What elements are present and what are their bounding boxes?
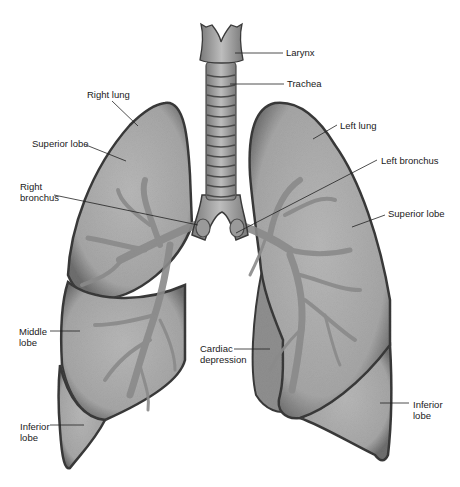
label-right-bronchus: Right bronchus — [20, 181, 59, 203]
label-trachea: Trachea — [287, 78, 322, 89]
lungs-diagram — [0, 0, 460, 487]
larynx — [200, 24, 243, 63]
label-left-bronchus: Left bronchus — [381, 155, 439, 166]
label-middle-lobe: Middle lobe — [19, 326, 47, 348]
label-right-superior-lobe: Superior lobe — [32, 138, 89, 149]
left-lung — [240, 103, 391, 461]
label-cardiac-depression: Cardiac depression — [200, 343, 246, 365]
label-right-inferior-lobe: Inferior lobe — [20, 421, 50, 443]
label-larynx: Larynx — [286, 47, 315, 58]
label-left-superior-lobe: Superior lobe — [388, 208, 445, 219]
left-bronchus-ring — [230, 219, 244, 237]
right-lung — [59, 103, 196, 468]
airway — [192, 24, 248, 240]
label-right-lung: Right lung — [87, 89, 130, 100]
trachea — [206, 62, 236, 200]
label-left-inferior-lobe: Inferior lobe — [413, 399, 443, 421]
right-bronchus-ring — [196, 219, 210, 237]
right-middle-lobe — [61, 282, 185, 420]
label-left-lung: Left lung — [340, 120, 376, 131]
